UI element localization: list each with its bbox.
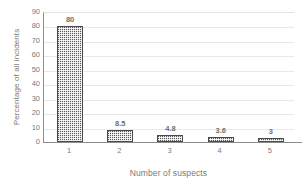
y-axis-tick-labels: 0102030405060708090 <box>18 12 40 142</box>
y-tick-label: 20 <box>18 109 40 117</box>
bar-slot: 8.5 <box>95 13 145 142</box>
y-tick-label: 0 <box>18 138 40 146</box>
x-tick-label: 4 <box>218 146 222 156</box>
y-tick-label: 80 <box>18 22 40 30</box>
bar[interactable] <box>57 26 83 142</box>
y-tick-label: 60 <box>18 51 40 59</box>
bar-slot: 3.6 <box>196 13 246 142</box>
x-tick-label: 1 <box>67 146 71 156</box>
y-tick-label: 30 <box>18 95 40 103</box>
x-tick-label: 3 <box>167 146 171 156</box>
bar-slot: 80 <box>45 13 95 142</box>
bar[interactable] <box>157 135 183 142</box>
x-tick-label: 2 <box>117 146 121 156</box>
x-axis-title: Number of suspects <box>43 167 294 179</box>
x-axis-line <box>43 142 302 143</box>
x-tick-label: 5 <box>268 146 272 156</box>
y-tick-label: 90 <box>18 8 40 16</box>
x-axis-tick-labels: 12345 <box>44 146 294 158</box>
bar-slot: 3 <box>246 13 296 142</box>
bar-value-label: 8.5 <box>115 119 125 128</box>
y-tick-label: 70 <box>18 37 40 45</box>
bar-value-label: 3 <box>269 127 273 136</box>
bar-value-label: 3.6 <box>215 126 225 135</box>
y-tick-label: 50 <box>18 66 40 74</box>
bar-chart: Percentage of all incidents 010203040506… <box>0 0 302 192</box>
y-tick-label: 40 <box>18 80 40 88</box>
bar-slot: 4.8 <box>145 13 195 142</box>
bars-layer: 808.54.83.63 <box>45 13 294 142</box>
bar[interactable] <box>107 130 133 142</box>
y-tick-label: 10 <box>18 124 40 132</box>
bar-value-label: 4.8 <box>165 124 175 133</box>
bar-value-label: 80 <box>66 15 74 24</box>
plot-area: 808.54.83.63 <box>43 12 294 142</box>
